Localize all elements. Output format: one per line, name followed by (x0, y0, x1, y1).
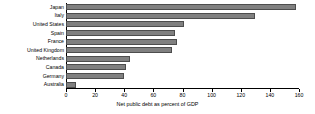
bar-row (66, 46, 299, 55)
x-tick-label: 120 (236, 93, 245, 98)
bar[interactable] (66, 56, 130, 62)
bar[interactable] (66, 64, 126, 70)
bar-row (66, 80, 299, 89)
category-label: Australia (44, 82, 64, 87)
category-label: Japan (50, 5, 64, 10)
x-tick-label: 100 (207, 93, 216, 98)
bar[interactable] (66, 47, 172, 53)
category-label: Netherlands (36, 56, 64, 61)
x-tick-label: 40 (121, 93, 127, 98)
category-label: Canada (46, 65, 64, 70)
bar[interactable] (66, 39, 177, 45)
bar-row (66, 63, 299, 72)
bar[interactable] (66, 21, 184, 27)
x-axis: 020406080100120140160 (66, 89, 299, 101)
bar-row (66, 55, 299, 64)
bar-chart: JapanItalyUnited StatesSpainFranceUnited… (0, 0, 315, 114)
bar-row (66, 37, 299, 46)
category-label: France (48, 39, 64, 44)
category-label: Italy (54, 13, 64, 18)
bar-row (66, 20, 299, 29)
x-tick-label: 60 (150, 93, 156, 98)
category-label: Spain (51, 31, 64, 36)
bar-row (66, 12, 299, 21)
category-label: United States (33, 22, 64, 27)
x-tick-label: 80 (180, 93, 186, 98)
category-label: Germany (43, 74, 64, 79)
x-tick-label: 140 (266, 93, 275, 98)
bar[interactable] (66, 4, 296, 10)
bar-row (66, 3, 299, 12)
bar-row (66, 72, 299, 81)
x-tick-label: 0 (65, 93, 68, 98)
bar-row (66, 29, 299, 38)
bar[interactable] (66, 82, 76, 88)
bar[interactable] (66, 30, 175, 36)
bar[interactable] (66, 13, 255, 19)
x-tick-label: 160 (295, 93, 304, 98)
x-axis-title: Net public debt as percent of GDP (0, 101, 315, 107)
x-tick-label: 20 (92, 93, 98, 98)
bar[interactable] (66, 73, 124, 79)
category-label: United Kingdom (27, 48, 64, 53)
